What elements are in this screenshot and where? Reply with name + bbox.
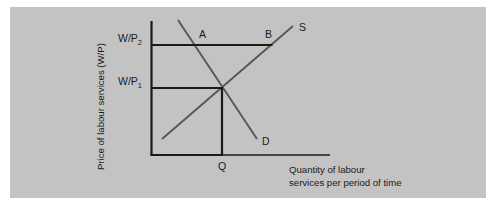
tick-label-wp2-base: W/P xyxy=(118,32,138,44)
tick-label-wp2-subscript: 2 xyxy=(138,38,142,47)
tick-label-wp1: W/P1 xyxy=(118,75,142,90)
point-label-a: A xyxy=(199,28,206,40)
demand-curve xyxy=(178,20,257,139)
tick-label-wp1-base: W/P xyxy=(118,75,138,87)
tick-label-wp1-subscript: 1 xyxy=(138,81,142,90)
curve-label-supply: S xyxy=(299,21,306,33)
labour-market-chart: Price of labour services (W/P) Quantity … xyxy=(0,0,496,205)
figure-root: Price of labour services (W/P) Quantity … xyxy=(0,0,496,205)
curve-label-demand: D xyxy=(262,135,270,147)
supply-curve xyxy=(162,26,293,139)
tick-label-q: Q xyxy=(218,160,226,172)
point-label-b: B xyxy=(265,28,272,40)
x-axis-title-line2: services per period of time xyxy=(289,177,402,188)
tick-label-wp2: W/P2 xyxy=(118,32,142,47)
x-axis-title-line1: Quantity of labour xyxy=(289,164,366,175)
y-axis-title: Price of labour services (W/P) xyxy=(95,43,106,170)
